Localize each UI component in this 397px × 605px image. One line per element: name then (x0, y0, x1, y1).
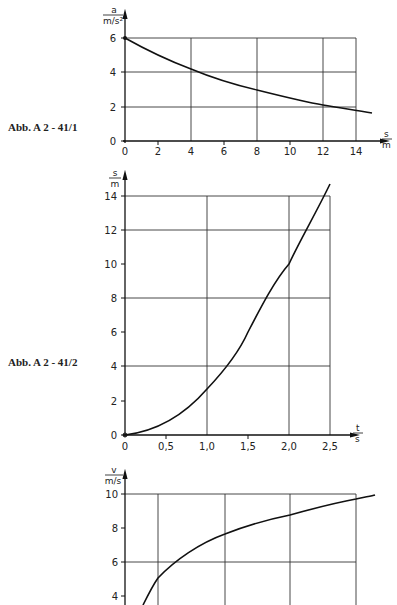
x-tick: 2,5 (322, 441, 338, 452)
curve-v (143, 495, 375, 605)
y-unit-numerator: s (113, 168, 118, 178)
y-tick: 14 (104, 191, 117, 202)
grid-lines (125, 38, 356, 141)
x-unit-numerator: s (384, 129, 389, 139)
x-tick: 2 (155, 146, 161, 157)
y-tick: 10 (105, 489, 118, 500)
y-unit-denominator: m/s² (103, 16, 123, 26)
y-unit-numerator: a (111, 5, 117, 15)
y-tick: 8 (111, 293, 117, 304)
charts-canvas: 6 4 2 0 0 2 4 6 8 10 12 14 a m/s² s m (0, 0, 397, 605)
x-tick: 0 (122, 146, 128, 157)
y-unit-numerator: v (111, 465, 117, 475)
y-tick: 10 (104, 259, 117, 270)
x-unit-numerator: t (356, 423, 360, 433)
x-tick: 14 (350, 146, 363, 157)
x-tick: 0 (122, 441, 128, 452)
y-tick: 8 (112, 523, 118, 534)
y-tick: 12 (104, 225, 117, 236)
x-unit-denominator: s (355, 434, 360, 444)
x-tick: 1,0 (199, 441, 215, 452)
y-tick-0: 0 (110, 136, 116, 147)
y-tick: 4 (112, 591, 118, 602)
y-unit-denominator: m/s (105, 476, 122, 486)
y-tick: 6 (111, 327, 117, 338)
x-tick: 8 (254, 146, 260, 157)
x-tick: 6 (221, 146, 227, 157)
y-tick: 0 (111, 430, 117, 441)
x-unit-denominator: m (382, 140, 391, 150)
x-tick: 2,0 (281, 441, 297, 452)
chart-velocity-partial: 10 8 6 4 v m/s (105, 465, 375, 605)
curve-s-of-t (125, 184, 330, 435)
chart-distance-vs-time: 14 12 10 8 6 4 2 0 0 0,5 1,0 1,5 2,0 2,5… (104, 168, 363, 452)
y-tick-4: 4 (110, 67, 116, 78)
grid-lines (125, 494, 356, 605)
y-unit-denominator: m (111, 179, 120, 189)
x-tick: 12 (317, 146, 330, 157)
grid-lines (125, 196, 330, 435)
y-tick-6: 6 (110, 33, 116, 44)
x-tick: 10 (284, 146, 297, 157)
x-tick: 1,5 (240, 441, 256, 452)
x-tick: 4 (188, 146, 194, 157)
y-tick: 6 (112, 557, 118, 568)
x-tick: 0,5 (158, 441, 174, 452)
curve-a-of-s (125, 38, 372, 113)
chart-acceleration-vs-distance: 6 4 2 0 0 2 4 6 8 10 12 14 a m/s² s m (103, 5, 392, 157)
y-tick-2: 2 (110, 102, 116, 113)
y-tick: 2 (111, 396, 117, 407)
y-tick: 4 (111, 361, 117, 372)
